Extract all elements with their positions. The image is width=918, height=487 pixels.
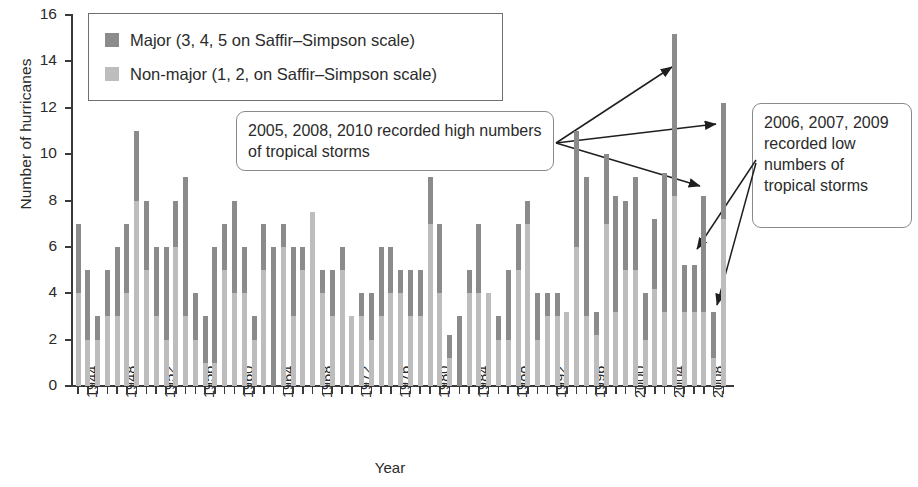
y-tick-label: 4 [27, 283, 57, 301]
bar-segment-non-major [535, 340, 540, 386]
bar-segment-major [340, 247, 345, 270]
bar-segment-non-major [222, 270, 227, 386]
x-tick [361, 387, 363, 394]
bar-segment-non-major [369, 340, 374, 386]
bar-segment-major [496, 316, 501, 339]
bar-1954 [173, 201, 178, 387]
x-tick [214, 387, 216, 394]
bar-segment-major [134, 131, 139, 201]
x-tick [116, 387, 118, 394]
bar-segment-non-major [183, 316, 188, 386]
x-tick [107, 387, 109, 394]
bar-segment-non-major [281, 247, 286, 386]
bar-segment-non-major [379, 316, 384, 386]
legend-item-major: Major (3, 4, 5 on Saffir–Simpson scale) [105, 23, 502, 57]
bar-1989 [516, 224, 521, 386]
bar-segment-non-major [242, 293, 247, 386]
bar-segment-non-major [76, 293, 81, 386]
bar-segment-major [652, 219, 657, 289]
x-tick [283, 387, 285, 394]
bar-2009 [711, 312, 716, 386]
bar-segment-non-major [613, 312, 618, 386]
x-tick [478, 387, 480, 394]
bar-segment-major [369, 293, 374, 339]
bar-segment-major [300, 247, 305, 270]
bar-segment-major [584, 177, 589, 316]
bar-segment-major [604, 154, 609, 224]
bar-segment-non-major [193, 340, 198, 386]
bar-segment-non-major [144, 270, 149, 386]
bar-segment-non-major [506, 340, 511, 386]
bar-segment-non-major [701, 312, 706, 386]
y-tick-label: 14 [27, 51, 57, 69]
x-tick [449, 387, 451, 394]
bar-segment-non-major [437, 293, 442, 386]
bar-1957 [203, 316, 208, 386]
x-tick [644, 387, 646, 394]
legend-label-major: Major (3, 4, 5 on Saffir–Simpson scale) [130, 31, 415, 50]
x-tick [683, 387, 685, 394]
bar-1987 [496, 316, 501, 386]
bar-1946 [95, 316, 100, 386]
bar-segment-major [261, 224, 266, 270]
bar-segment-major [643, 293, 648, 339]
bar-1986 [486, 293, 491, 386]
bar-segment-non-major [604, 224, 609, 386]
bar-2008 [701, 196, 706, 386]
y-tick-label: 10 [27, 144, 57, 162]
bar-segment-major [682, 265, 687, 311]
y-tick-label: 0 [27, 376, 57, 394]
bar-1975 [379, 247, 384, 386]
bar-segment-non-major [349, 316, 354, 386]
x-tick [625, 387, 627, 394]
x-tick [664, 387, 666, 394]
bar-1984 [467, 270, 472, 386]
bar-1958 [212, 247, 217, 386]
bar-segment-non-major [164, 340, 169, 386]
x-tick [410, 387, 412, 394]
bar-1970 [330, 270, 335, 386]
bar-segment-major [467, 270, 472, 293]
x-tick [595, 387, 597, 394]
bar-1955 [183, 177, 188, 386]
x-tick [390, 387, 392, 394]
bar-1944 [76, 224, 81, 386]
bar-segment-major [662, 173, 667, 312]
y-tick-label: 6 [27, 237, 57, 255]
bar-2005 [672, 34, 677, 386]
bar-segment-non-major [232, 293, 237, 386]
x-tick [224, 387, 226, 394]
bar-1960 [232, 201, 237, 387]
x-tick [498, 387, 500, 394]
bar-1977 [398, 270, 403, 386]
bar-1966 [291, 247, 296, 386]
x-tick [185, 387, 187, 394]
bar-segment-non-major [467, 293, 472, 386]
bar-segment-non-major [261, 270, 266, 386]
bar-1985 [476, 224, 481, 386]
x-tick [234, 387, 236, 394]
x-tick [312, 387, 314, 394]
y-tick [65, 60, 72, 62]
bar-segment-major [183, 177, 188, 316]
bar-segment-major [203, 316, 208, 362]
x-tick [547, 387, 549, 394]
bar-segment-non-major [428, 224, 433, 386]
bar-segment-major [457, 316, 462, 386]
y-tick-label: 8 [27, 191, 57, 209]
x-tick [371, 387, 373, 394]
legend-swatch-non-major-icon [105, 67, 119, 81]
bar-1999 [613, 196, 618, 386]
x-tick [713, 387, 715, 394]
bar-1968 [310, 212, 315, 386]
bar-segment-major [232, 201, 237, 294]
bar-1965 [281, 224, 286, 386]
x-tick [566, 387, 568, 394]
bar-segment-major [721, 103, 726, 219]
bar-segment-major [525, 201, 530, 224]
bar-1953 [164, 247, 169, 386]
x-tick [341, 387, 343, 394]
x-tick [605, 387, 607, 394]
bar-1997 [594, 312, 599, 386]
annotation-high-storms: 2005, 2008, 2010 recorded high numbers o… [236, 111, 554, 171]
